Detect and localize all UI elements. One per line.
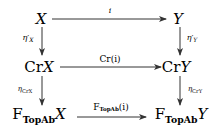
- label-middle: Cr(i): [99, 55, 120, 63]
- label-left-lower: ηCrX: [18, 85, 32, 95]
- node-crx-var: X: [43, 58, 54, 76]
- label-right-upper: η′Y: [187, 34, 198, 44]
- label-top: i: [109, 7, 112, 15]
- label-left-lower-sub: CrX: [22, 88, 32, 94]
- node-cry-var: Y: [180, 58, 190, 76]
- node-fx-prefix: F: [12, 105, 22, 123]
- node-fx-sub: TopAb: [23, 114, 55, 125]
- label-bottom-sub: TopAb: [99, 106, 118, 112]
- node-fy-var: Y: [197, 105, 207, 123]
- node-fx-var: X: [55, 105, 66, 123]
- node-fy-sub: TopAb: [165, 114, 197, 125]
- node-fy-prefix: F: [155, 105, 165, 123]
- node-f-topab-x: FTopAbX: [12, 107, 65, 126]
- label-right-lower: ηCrY: [188, 85, 202, 95]
- label-bottom-arg: (i): [119, 102, 129, 112]
- label-bottom: FTopAb(i): [93, 103, 129, 114]
- node-y: Y: [173, 12, 183, 27]
- label-right-lower-sub: CrY: [192, 88, 202, 94]
- node-x: X: [36, 12, 47, 27]
- node-f-topab-y: FTopAbY: [155, 107, 208, 126]
- node-cry: CrY: [162, 60, 191, 75]
- node-cry-prefix: Cr: [162, 58, 181, 76]
- node-crx-prefix: Cr: [24, 58, 43, 76]
- label-left-upper-sub: X: [29, 36, 33, 43]
- node-crx: CrX: [24, 60, 53, 75]
- label-left-upper: η′X: [23, 34, 34, 44]
- label-right-upper-sub: Y: [193, 36, 197, 43]
